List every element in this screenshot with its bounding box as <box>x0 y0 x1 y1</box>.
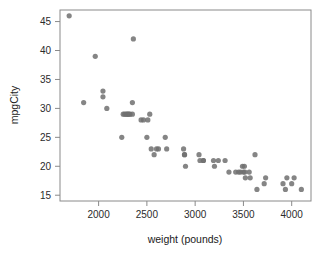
y-tick-label: 40 <box>40 45 52 56</box>
scatter-point <box>164 146 169 151</box>
scatter-point <box>144 135 149 140</box>
scatter-point <box>262 181 267 186</box>
y-tick-label: 20 <box>40 161 52 172</box>
scatter-point <box>222 158 227 163</box>
x-tick-label: 3500 <box>232 209 255 220</box>
scatter-point <box>100 94 105 99</box>
scatter-point <box>252 152 257 157</box>
y-tick-label: 25 <box>40 132 52 143</box>
scatter-point <box>254 187 259 192</box>
scatter-point <box>81 100 86 105</box>
scatter-point <box>147 112 152 117</box>
scatter-point <box>119 135 124 140</box>
scatter-point <box>145 117 150 122</box>
scatter-point <box>247 169 252 174</box>
scatter-point <box>196 152 201 157</box>
scatter-point <box>201 158 206 163</box>
chart-canvas: 20002500300035004000 15202530354045 weig… <box>0 0 322 256</box>
scatter-point <box>226 169 231 174</box>
scatter-point <box>299 187 304 192</box>
scatter-point <box>93 54 98 59</box>
y-tick-label: 15 <box>40 190 52 201</box>
y-tick-label: 35 <box>40 74 52 85</box>
y-tick-label: 45 <box>40 16 52 27</box>
scatter-point <box>183 164 188 169</box>
scatter-point <box>242 164 247 169</box>
scatter-point <box>284 175 289 180</box>
scatter-point <box>152 152 157 157</box>
scatter-point <box>100 88 105 93</box>
scatter-point <box>130 112 135 117</box>
y-axis-title: mpgCity <box>8 85 20 124</box>
scatter-point <box>156 146 161 151</box>
scatter-point <box>67 13 72 18</box>
x-tick-label: 2000 <box>87 209 110 220</box>
scatter-point <box>243 175 248 180</box>
x-tick-label: 3000 <box>184 209 207 220</box>
scatter-point <box>263 175 268 180</box>
scatter-point <box>163 135 168 140</box>
scatter-plot-figure: 20002500300035004000 15202530354045 weig… <box>0 0 322 256</box>
scatter-point <box>149 146 154 151</box>
scatter-point <box>104 106 109 111</box>
scatter-point <box>182 152 187 157</box>
x-axis-title: weight (pounds) <box>147 233 223 245</box>
x-tick-label: 4000 <box>281 209 304 220</box>
scatter-point <box>130 100 135 105</box>
scatter-point <box>248 175 253 180</box>
scatter-point <box>283 187 288 192</box>
scatter-point <box>212 164 217 169</box>
scatter-point <box>280 181 285 186</box>
scatter-point <box>181 146 186 151</box>
scatter-point <box>216 158 221 163</box>
scatter-point <box>289 181 294 186</box>
scatter-point <box>211 158 216 163</box>
y-tick-label: 30 <box>40 103 52 114</box>
scatter-point <box>292 175 297 180</box>
figure-background <box>0 0 322 256</box>
scatter-point <box>131 36 136 41</box>
x-tick-label: 2500 <box>136 209 159 220</box>
